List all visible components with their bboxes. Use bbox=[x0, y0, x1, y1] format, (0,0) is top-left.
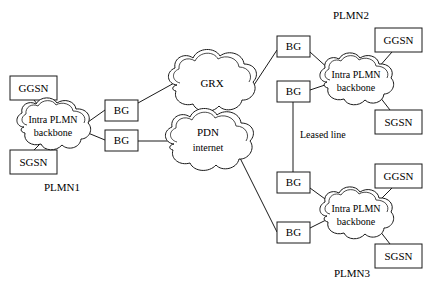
plmn1-backbone-cloud[interactable]: Intra PLMN backbone bbox=[17, 98, 91, 150]
network-plmn3: BG BG GGSN SGSN Intra PLMN bbox=[277, 164, 422, 279]
plmn1-ggsn-node[interactable]: GGSN bbox=[10, 76, 57, 100]
network-plmn2: PLMN2 BG BG GGSN SGSN bbox=[277, 9, 422, 141]
leased-line-label: Leased line bbox=[300, 129, 346, 140]
plmn2-ggsn-label: GGSN bbox=[384, 34, 414, 46]
plmn1-sgsn-node[interactable]: SGSN bbox=[10, 150, 57, 174]
plmn2-backbone-cloud[interactable]: Intra PLMN backbone bbox=[320, 53, 394, 105]
plmn3-title: PLMN3 bbox=[334, 267, 371, 279]
plmn1-bg-lower-label: BG bbox=[114, 134, 129, 146]
link-plmn1-bg-upper-grx bbox=[138, 82, 176, 103]
plmn2-sgsn-node[interactable]: SGSN bbox=[375, 110, 422, 134]
plmn1-bg-lower-node[interactable]: BG bbox=[105, 130, 138, 151]
pdn-label-line2: internet bbox=[193, 142, 224, 153]
plmn2-title: PLMN2 bbox=[333, 9, 369, 21]
plmn3-ggsn-node[interactable]: GGSN bbox=[375, 164, 422, 188]
plmn3-backbone-label-line1: Intra PLMN bbox=[331, 203, 380, 214]
plmn3-ggsn-label: GGSN bbox=[384, 170, 414, 182]
plmn2-backbone-label-line2: backbone bbox=[337, 82, 376, 93]
plmn2-sgsn-label: SGSN bbox=[384, 116, 412, 128]
link-grx-plmn2-bg-upper bbox=[252, 50, 277, 88]
diagram-canvas: GGSN SGSN Intra PLMN backbone BG bbox=[0, 0, 432, 291]
plmn1-sgsn-label: SGSN bbox=[19, 156, 47, 168]
link-plmn1-backbone-bg-upper bbox=[88, 110, 105, 122]
plmn2-backbone-label-line1: Intra PLMN bbox=[331, 69, 380, 80]
plmn3-sgsn-node[interactable]: SGSN bbox=[375, 244, 422, 268]
grx-label: GRX bbox=[200, 77, 223, 89]
grx-cloud[interactable]: GRX bbox=[168, 49, 256, 111]
plmn2-bg-upper-node[interactable]: BG bbox=[277, 36, 310, 57]
network-diagram: GGSN SGSN Intra PLMN backbone BG bbox=[0, 0, 432, 291]
plmn2-bg-lower-label: BG bbox=[286, 85, 301, 97]
plmn1-title: PLMN1 bbox=[44, 181, 80, 193]
link-pdn-plmn3-bg-lower bbox=[240, 158, 277, 232]
plmn3-sgsn-label: SGSN bbox=[384, 250, 412, 262]
plmn1-backbone-label-line2: backbone bbox=[34, 127, 73, 138]
plmn1-bg-upper-label: BG bbox=[114, 104, 129, 116]
plmn3-bg-upper-label: BG bbox=[286, 176, 301, 188]
plmn3-bg-lower-label: BG bbox=[286, 226, 301, 238]
plmn1-ggsn-label: GGSN bbox=[19, 82, 49, 94]
plmn3-bg-lower-node[interactable]: BG bbox=[277, 222, 310, 243]
plmn3-bg-upper-node[interactable]: BG bbox=[277, 172, 310, 193]
plmn2-bg-upper-label: BG bbox=[286, 40, 301, 52]
plmn2-bg-lower-node[interactable]: BG bbox=[277, 81, 310, 102]
network-plmn1: GGSN SGSN Intra PLMN backbone BG bbox=[10, 76, 138, 193]
plmn3-backbone-label-line2: backbone bbox=[337, 216, 376, 227]
pdn-cloud-outline bbox=[165, 108, 253, 170]
link-plmn1-backbone-bg-lower bbox=[88, 133, 105, 140]
pdn-label-line1: PDN bbox=[197, 126, 219, 138]
plmn1-bg-upper-node[interactable]: BG bbox=[105, 100, 138, 121]
plmn3-backbone-cloud[interactable]: Intra PLMN backbone bbox=[320, 187, 394, 239]
plmn2-ggsn-node[interactable]: GGSN bbox=[375, 28, 422, 52]
plmn1-backbone-label-line1: Intra PLMN bbox=[28, 114, 77, 125]
pdn-cloud[interactable]: PDN internet bbox=[165, 108, 253, 170]
